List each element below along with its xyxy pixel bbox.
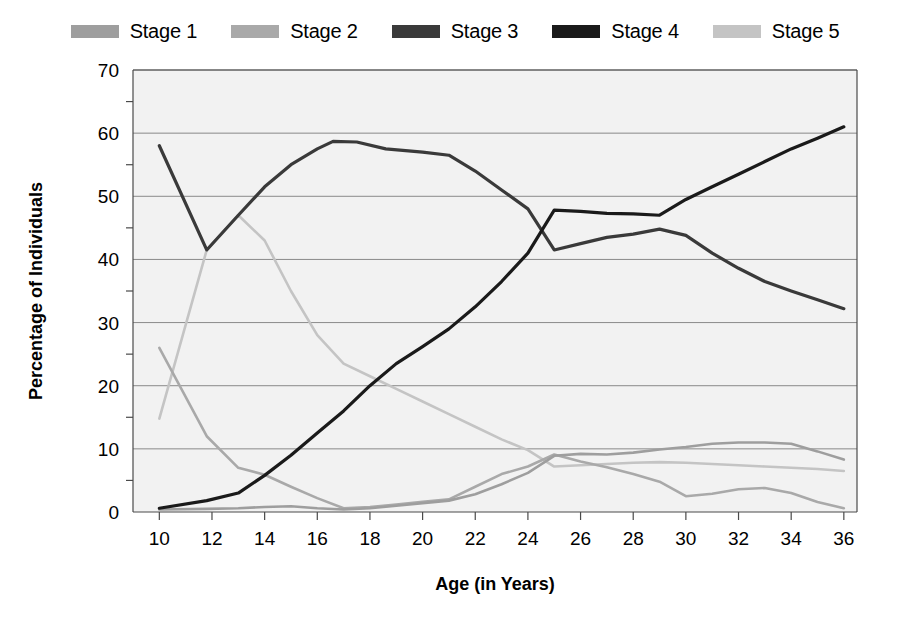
x-tick-label: 24: [517, 528, 539, 549]
y-tick-label: 0: [108, 502, 119, 523]
x-tick-label: 10: [149, 528, 170, 549]
y-tick-label: 30: [98, 313, 119, 334]
x-tick-label: 20: [412, 528, 433, 549]
x-tick-label: 26: [570, 528, 591, 549]
y-tick-label: 10: [98, 439, 119, 460]
line-chart-svg: 0102030405060701012141618202224262830323…: [0, 0, 910, 619]
y-tick-label: 60: [98, 123, 119, 144]
x-tick-label: 34: [781, 528, 803, 549]
x-axis-title: Age (in Years): [435, 574, 555, 594]
y-tick-label: 20: [98, 376, 119, 397]
y-tick-label: 40: [98, 249, 119, 270]
x-tick-label: 14: [254, 528, 276, 549]
x-tick-label: 32: [728, 528, 749, 549]
x-tick-label: 30: [675, 528, 696, 549]
y-tick-label: 70: [98, 60, 119, 81]
x-tick-label: 18: [359, 528, 380, 549]
x-tick-label: 12: [201, 528, 222, 549]
y-axis-title: Percentage of Individuals: [26, 182, 46, 400]
chart-root: Stage 1 Stage 2 Stage 3 Stage 4 Stage 5 …: [0, 0, 910, 619]
plot-background: [133, 70, 857, 512]
x-tick-label: 16: [307, 528, 328, 549]
x-tick-label: 28: [623, 528, 644, 549]
plot-area-wrapper: 0102030405060701012141618202224262830323…: [0, 0, 910, 619]
y-tick-label: 50: [98, 186, 119, 207]
x-tick-label: 22: [465, 528, 486, 549]
x-tick-label: 36: [833, 528, 854, 549]
